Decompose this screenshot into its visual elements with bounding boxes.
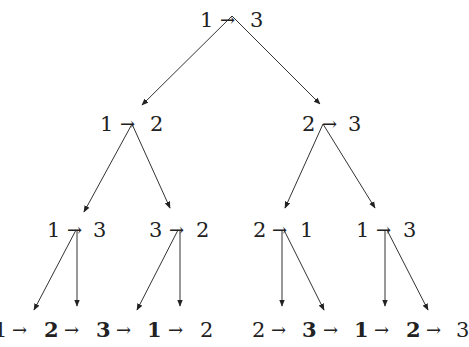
- seq-item: 3: [96, 317, 111, 342]
- arrow-icon: →: [168, 319, 183, 340]
- node-to: 2: [196, 218, 209, 242]
- arrow-icon: →: [426, 319, 441, 340]
- seq-item: 1: [147, 317, 162, 342]
- arrow-icon: →: [116, 319, 131, 340]
- arrow-icon: →: [272, 219, 287, 240]
- node-l1-left: 1 → 2: [100, 112, 163, 136]
- edge-l1a-l2b: [132, 124, 170, 208]
- node-from: 2: [302, 112, 315, 136]
- arrow-icon: →: [64, 319, 79, 340]
- node-l2-b: 3 → 2: [149, 218, 209, 242]
- seq-item: 2: [200, 318, 213, 342]
- seq-item: 3: [456, 318, 469, 342]
- arrow-icon: →: [271, 319, 286, 340]
- node-to: 3: [348, 112, 361, 136]
- node-from: 1: [47, 218, 60, 242]
- arrow-icon: →: [120, 113, 135, 134]
- edges: [34, 16, 428, 310]
- node-l2-a: 1 → 3: [47, 218, 106, 242]
- seq-item: 2: [406, 317, 421, 342]
- node-from: 1: [356, 218, 369, 242]
- node-from: 2: [253, 218, 266, 242]
- arrow-icon: →: [67, 219, 82, 240]
- edge-l1b-l2d: [323, 124, 375, 208]
- node-l2-d: 1 → 3: [356, 218, 416, 242]
- edge-l1a-l2a: [84, 124, 132, 212]
- sequence-left: 1 → 2 → 3 → 1 → 2: [0, 317, 213, 342]
- arrow-icon: →: [322, 113, 337, 134]
- edge-l2c-seq2: [284, 230, 324, 310]
- node-to: 2: [150, 112, 163, 136]
- arrow-icon: →: [374, 319, 389, 340]
- arrow-icon: →: [323, 319, 338, 340]
- node-root: 1 → 3: [200, 8, 263, 32]
- seq-item: 1: [0, 318, 7, 342]
- node-root-from: 1: [200, 8, 213, 32]
- arrow-icon: →: [169, 219, 184, 240]
- seq-item: 3: [302, 317, 317, 342]
- node-to: 3: [93, 218, 106, 242]
- node-to: 3: [403, 218, 416, 242]
- seq-item: 1: [354, 317, 369, 342]
- edge-l2d-seq5: [387, 230, 428, 310]
- edge-root-left: [142, 16, 232, 105]
- seq-item: 2: [44, 317, 59, 342]
- sequence-right: 2 → 3 → 1 → 2 → 3: [252, 317, 469, 342]
- arrow-icon: →: [376, 219, 391, 240]
- recursion-tree-diagram: 1 → 3 1 → 2 2 → 3 1 → 3 3 → 2 2 → 1 1 → …: [0, 0, 469, 347]
- arrow-icon: →: [220, 9, 235, 30]
- edge-l1b-l2c: [285, 124, 323, 208]
- edge-l2a-seq1: [34, 230, 76, 310]
- seq-item: 2: [252, 318, 265, 342]
- node-from: 3: [149, 218, 162, 242]
- edge-l2b-seq4: [137, 230, 178, 310]
- node-l1-right: 2 → 3: [302, 112, 361, 136]
- node-from: 1: [100, 112, 113, 136]
- arrow-icon: →: [12, 319, 27, 340]
- edge-root-right: [232, 16, 320, 104]
- node-l2-c: 2 → 1: [253, 218, 313, 242]
- node-root-to: 3: [250, 8, 263, 32]
- node-to: 1: [300, 218, 313, 242]
